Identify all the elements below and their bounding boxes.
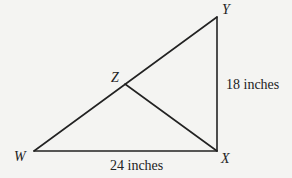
vertex-label-z: Z (111, 70, 119, 85)
dimension-label-xy: 18 inches (226, 77, 279, 92)
triangle-diagram: Y Z W X 18 inches 24 inches (0, 0, 292, 178)
segment-zx (125, 84, 217, 151)
dimension-label-wx: 24 inches (110, 158, 163, 173)
vertex-label-y: Y (222, 2, 232, 17)
vertex-label-w: W (14, 149, 27, 164)
vertex-label-x: X (220, 151, 230, 166)
